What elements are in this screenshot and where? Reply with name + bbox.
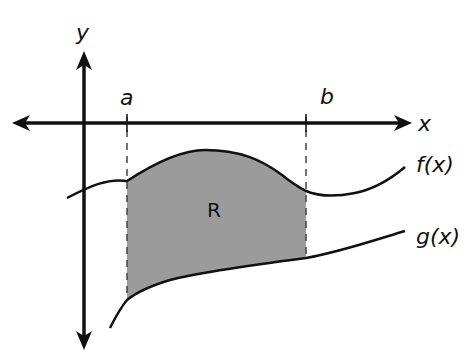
- curve-g-label: g(x): [416, 224, 460, 249]
- x-axis-label: x: [417, 111, 432, 136]
- bound-label-a: a: [120, 85, 133, 110]
- curve-f-label: f(x): [416, 152, 454, 177]
- bound-label-b: b: [320, 84, 334, 109]
- area-between-curves-diagram: y x a b f(x) g(x) R: [0, 0, 467, 358]
- y-axis-label: y: [75, 20, 90, 45]
- region-label: R: [207, 198, 221, 222]
